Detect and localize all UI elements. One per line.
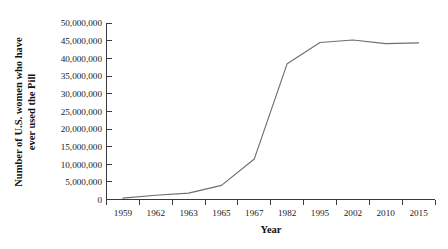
x-tick-label-1995: 1995 [311, 208, 330, 218]
x-tick-label-1963: 1963 [179, 208, 198, 218]
line-chart: Number of U.S. women who have ever used … [0, 0, 448, 249]
y-tick-label-50000000: 50,000,000 [61, 18, 103, 28]
y-tick-label-40000000: 40,000,000 [61, 54, 103, 64]
y-tick-label-10000000: 10,000,000 [61, 160, 103, 170]
y-tick-label-20000000: 20,000,000 [61, 124, 103, 134]
y-tick-label-0: 0 [97, 195, 102, 205]
x-tick-label-2002: 2002 [344, 208, 363, 218]
y-tick-label-15000000: 15,000,000 [61, 142, 103, 152]
chart-figure: Number of U.S. women who have ever used … [0, 0, 448, 249]
x-tick-label-1982: 1982 [278, 208, 297, 218]
y-tick-label-30000000: 30,000,000 [61, 89, 103, 99]
x-tick-label-1962: 1962 [147, 208, 166, 218]
x-tick-label-1967: 1967 [245, 208, 264, 218]
x-axis-title: Year [261, 224, 282, 235]
x-tick-label-1965: 1965 [212, 208, 231, 218]
y-tick-label-25000000: 25,000,000 [61, 107, 103, 117]
x-tick-label-1959: 1959 [114, 208, 133, 218]
y-axis-title-line2: ever used the Pill [26, 74, 37, 151]
x-tick-label-2010: 2010 [377, 208, 396, 218]
y-tick-label-5000000: 5,000,000 [65, 177, 102, 187]
y-axis-title-line1: Number of U.S. women who have [13, 37, 24, 187]
x-tick-label-2015: 2015 [409, 208, 428, 218]
y-tick-label-35000000: 35,000,000 [61, 71, 103, 81]
y-tick-label-45000000: 45,000,000 [61, 36, 103, 46]
